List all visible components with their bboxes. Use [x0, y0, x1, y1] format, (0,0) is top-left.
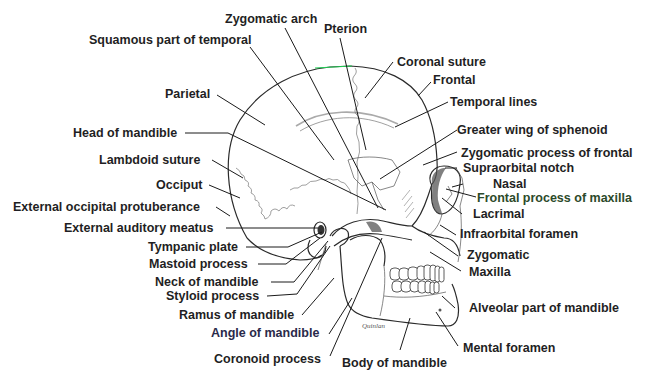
label-frontal: Frontal: [433, 73, 475, 87]
label-angle-of-mandible: Angle of mandible: [211, 326, 319, 340]
label-squamous-temporal: Squamous part of temporal: [89, 33, 252, 47]
label-greater-wing-sphenoid: Greater wing of sphenoid: [457, 123, 608, 137]
cranial-vault-outline: [228, 66, 437, 238]
occipital-outline: [247, 238, 322, 260]
upper-teeth: [390, 265, 444, 282]
label-nasal: Nasal: [493, 177, 526, 191]
label-alveolar-part-mandible: Alveolar part of mandible: [469, 301, 619, 315]
label-frontal-process-maxilla: Frontal process of maxilla: [477, 191, 633, 205]
label-external-occipital-protuberance: External occipital protuberance: [13, 200, 200, 214]
lambdoid-suture-line: [236, 168, 295, 219]
squamosal-suture-line: [290, 179, 351, 195]
skull-illustration: Quinlan: [228, 66, 464, 330]
label-external-auditory-meatus: External auditory meatus: [64, 221, 213, 235]
label-maxilla: Maxilla: [469, 265, 512, 279]
label-lambdoid-suture: Lambdoid suture: [99, 153, 200, 167]
label-zygomatic-process-frontal: Zygomatic process of frontal: [461, 146, 633, 160]
label-zygomatic: Zygomatic: [467, 248, 530, 262]
label-head-of-mandible: Head of mandible: [73, 126, 177, 140]
label-parietal: Parietal: [165, 87, 210, 101]
label-coronal-suture: Coronal suture: [397, 55, 486, 69]
lower-teeth: [392, 281, 439, 294]
label-ramus-of-mandible: Ramus of mandible: [179, 308, 294, 322]
label-coronoid-process: Coronoid process: [214, 352, 321, 366]
temporal-lines-curve: [296, 112, 398, 126]
label-body-of-mandible: Body of mandible: [342, 356, 447, 370]
label-tympanic-plate: Tympanic plate: [148, 240, 238, 254]
artist-signature: Quinlan: [362, 322, 385, 330]
coronal-suture-line: [353, 68, 360, 214]
label-temporal-lines: Temporal lines: [450, 95, 537, 109]
label-occiput: Occiput: [156, 178, 203, 192]
label-supraorbital-notch: Supraorbital notch: [463, 161, 574, 175]
orbit-shadow: [432, 168, 446, 214]
coronoid-outline: [350, 236, 385, 267]
labels: Zygomatic arch Pterion Squamous part of …: [13, 12, 633, 370]
label-infraorbital-foramen: Infraorbital foramen: [460, 227, 578, 241]
label-mastoid-process: Mastoid process: [149, 257, 248, 271]
label-lacrimal: Lacrimal: [473, 207, 524, 221]
mandibular-head: [330, 229, 349, 246]
label-pterion: Pterion: [324, 22, 367, 36]
label-mental-foramen: Mental foramen: [463, 341, 555, 355]
skull-diagram: Quinlan: [0, 0, 656, 380]
label-zygomatic-arch: Zygomatic arch: [225, 12, 317, 26]
label-styloid-process: Styloid process: [166, 289, 259, 303]
label-neck-of-mandible: Neck of mandible: [155, 275, 259, 289]
